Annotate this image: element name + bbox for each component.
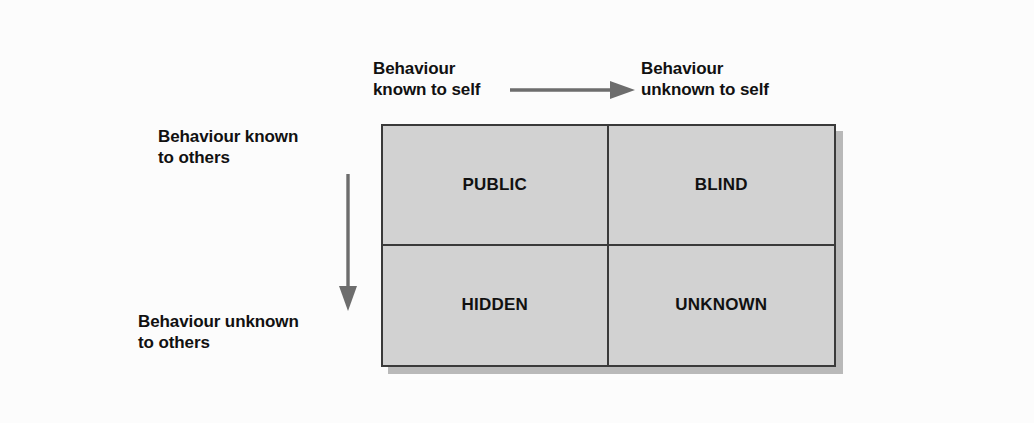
axis-label-behaviour-known-to-self: Behaviour known to self bbox=[373, 58, 480, 100]
axis-label-behaviour-unknown-to-self: Behaviour unknown to self bbox=[641, 58, 769, 100]
quadrant-blind: BLIND bbox=[609, 126, 835, 246]
horizontal-arrow-icon bbox=[508, 72, 636, 108]
quadrant-public: PUBLIC bbox=[383, 126, 609, 246]
johari-window-diagram: Behaviour known to self Behaviour unknow… bbox=[0, 0, 1034, 423]
vertical-arrow-icon bbox=[330, 172, 366, 312]
axis-label-behaviour-known-to-others: Behaviour known to others bbox=[158, 126, 358, 168]
quadrant-hidden: HIDDEN bbox=[383, 246, 609, 366]
axis-label-behaviour-unknown-to-others: Behaviour unknown to others bbox=[138, 311, 358, 353]
quadrant-unknown: UNKNOWN bbox=[609, 246, 835, 366]
johari-window-grid: PUBLIC BLIND HIDDEN UNKNOWN bbox=[381, 124, 836, 367]
